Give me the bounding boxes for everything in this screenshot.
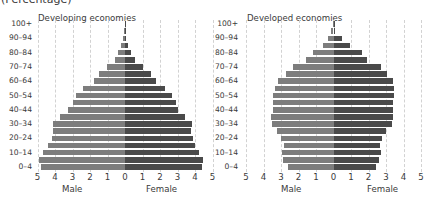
- y-tick-label: 50–54: [204, 92, 238, 100]
- x-tick-label: 3: [380, 172, 392, 182]
- male-bar-65-69: [286, 71, 333, 77]
- male-bar-60-64: [278, 78, 333, 84]
- developed-economies-pyramid: Developed economies 0–410–1420–2430–3440…: [0, 0, 434, 201]
- male-bar-0-4: [288, 164, 334, 170]
- male-bar-5-9: [283, 157, 334, 163]
- gridline: [246, 20, 247, 172]
- gridline: [421, 20, 422, 172]
- x-tick-label: 4: [398, 172, 410, 182]
- y-tick-label: 60–64: [204, 77, 238, 85]
- male-bar-40-44: [273, 107, 333, 113]
- x-tick-label: 4: [258, 172, 270, 182]
- gridline: [404, 20, 405, 172]
- y-tick-label: 10–14: [204, 149, 238, 157]
- female-bar-35-39: [334, 114, 394, 120]
- male-bar-50-54: [273, 93, 333, 99]
- y-tick-label: 80–84: [204, 49, 238, 57]
- x-axis-label-male: Male: [281, 184, 301, 194]
- female-bar-45-49: [334, 100, 394, 106]
- x-tick-label: 0: [328, 172, 340, 182]
- male-bar-10-14: [282, 150, 334, 156]
- male-bar-75-79: [306, 57, 333, 63]
- x-tick-label: 5: [415, 172, 427, 182]
- male-bar-85-89: [323, 43, 334, 49]
- female-bar-85-89: [334, 43, 351, 49]
- female-bar-25-29: [334, 128, 387, 134]
- female-bar-90-94: [334, 36, 343, 42]
- female-bar-60-64: [334, 78, 394, 84]
- x-tick-label: 2: [293, 172, 305, 182]
- female-bar-55-59: [334, 86, 394, 92]
- y-tick-label: 70–74: [204, 63, 238, 71]
- y-tick-label: 100+: [204, 20, 238, 28]
- chart-title: Developed economies: [247, 13, 342, 23]
- female-bar-15-19: [334, 143, 380, 149]
- female-bar-5-9: [334, 157, 380, 163]
- x-tick-label: 2: [363, 172, 375, 182]
- female-bar-20-24: [334, 136, 382, 142]
- male-bar-20-24: [281, 136, 334, 142]
- male-bar-45-49: [273, 100, 333, 106]
- female-bar-65-69: [334, 71, 387, 77]
- x-tick-label: 3: [275, 172, 287, 182]
- x-tick-label: 1: [310, 172, 322, 182]
- female-bar-70-74: [334, 64, 381, 70]
- male-bar-70-74: [293, 64, 333, 70]
- gridline: [264, 20, 265, 172]
- female-bar-40-44: [334, 107, 394, 113]
- female-bar-95-99: [334, 28, 336, 34]
- female-bar-50-54: [334, 93, 394, 99]
- male-bar-80-84: [313, 50, 333, 56]
- male-bar-30-34: [272, 121, 333, 127]
- female-bar-100+: [334, 21, 335, 27]
- y-tick-label: 20–24: [204, 134, 238, 142]
- female-bar-0-4: [334, 164, 376, 170]
- y-tick-label: 40–44: [204, 106, 238, 114]
- male-bar-35-39: [271, 114, 333, 120]
- x-tick-label: 5: [240, 172, 252, 182]
- female-bar-10-14: [334, 150, 381, 156]
- female-bar-30-34: [334, 121, 393, 127]
- male-bar-15-19: [284, 143, 334, 149]
- female-bar-75-79: [334, 57, 367, 63]
- y-tick-label: 30–34: [204, 120, 238, 128]
- male-bar-55-59: [275, 86, 334, 92]
- y-tick-label: 0–4: [204, 163, 238, 171]
- x-tick-label: 1: [345, 172, 357, 182]
- x-axis-label-female: Female: [367, 184, 398, 194]
- y-tick-label: 90–94: [204, 34, 238, 42]
- female-bar-80-84: [334, 50, 362, 56]
- male-bar-25-29: [277, 128, 334, 134]
